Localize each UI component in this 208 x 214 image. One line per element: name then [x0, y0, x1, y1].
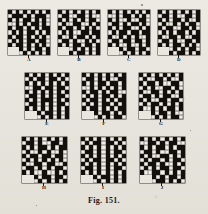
- diagram-I: I: [81, 137, 126, 183]
- puzzle-cells-B: [58, 10, 100, 55]
- diagram-label-C: C: [118, 57, 140, 63]
- diagram-label-J: J: [151, 185, 173, 191]
- diagram-C: C: [108, 10, 150, 55]
- diagram-B: B: [58, 10, 100, 55]
- scan-speck: [190, 130, 191, 131]
- puzzle-cell-white: [122, 115, 126, 119]
- diagram-F: F: [82, 73, 126, 119]
- diagram-label-G: G: [150, 121, 172, 127]
- puzzle-cell-black: [65, 115, 69, 119]
- diagram-label-F: F: [93, 121, 115, 127]
- puzzle-cells-J: [140, 137, 185, 183]
- puzzle-cell-black: [96, 51, 100, 55]
- diagram-E: E: [25, 73, 69, 119]
- puzzle-grid-I: [81, 137, 126, 183]
- puzzle-grid-G: [139, 73, 183, 119]
- diagram-J: J: [140, 137, 185, 183]
- puzzle-cell-black: [63, 179, 67, 183]
- diagram-label-I: I: [92, 185, 114, 191]
- figure-caption: Fig. 151.: [0, 196, 208, 205]
- puzzle-grid-A: [8, 10, 50, 55]
- puzzle-grid-F: [82, 73, 126, 119]
- puzzle-cells-I: [81, 137, 126, 183]
- puzzle-cell-black: [146, 51, 150, 55]
- puzzle-grid-C: [108, 10, 150, 55]
- puzzle-grid-H: [22, 137, 67, 183]
- puzzle-grid-D: [158, 10, 200, 55]
- diagram-label-A: A: [18, 57, 40, 63]
- diagram-H: H: [22, 137, 67, 183]
- puzzle-cells-G: [139, 73, 183, 119]
- puzzle-grid-J: [140, 137, 185, 183]
- puzzle-cell-black: [46, 51, 50, 55]
- scan-speck: [141, 4, 143, 6]
- diagram-label-H: H: [33, 185, 55, 191]
- puzzle-cells-C: [108, 10, 150, 55]
- scan-speck: [36, 205, 37, 206]
- puzzle-cell-white: [181, 179, 185, 183]
- diagram-label-B: B: [68, 57, 90, 63]
- diagram-G: G: [139, 73, 183, 119]
- diagram-label-E: E: [36, 121, 58, 127]
- puzzle-cell-black: [122, 179, 126, 183]
- puzzle-cell-white: [179, 115, 183, 119]
- diagram-D: D: [158, 10, 200, 55]
- puzzle-cells-F: [82, 73, 126, 119]
- puzzle-cells-E: [25, 73, 69, 119]
- puzzle-cells-A: [8, 10, 50, 55]
- puzzle-cells-D: [158, 10, 200, 55]
- puzzle-cell-black: [196, 51, 200, 55]
- puzzle-grid-E: [25, 73, 69, 119]
- puzzle-grid-B: [58, 10, 100, 55]
- diagram-A: A: [8, 10, 50, 55]
- puzzle-cells-H: [22, 137, 67, 183]
- diagram-label-D: D: [168, 57, 190, 63]
- figure-151: A B C D E F: [0, 0, 208, 214]
